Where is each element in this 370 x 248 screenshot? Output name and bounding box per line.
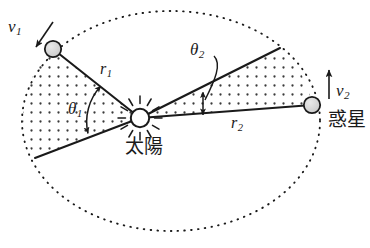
- label-theta2-base: θ: [190, 40, 198, 59]
- label-v1: v1: [8, 18, 22, 37]
- label-v2: v2: [336, 82, 350, 101]
- label-r2-base: r: [231, 114, 237, 131]
- label-r2-subscript: 2: [238, 122, 243, 133]
- orbit-diagram-canvas: [0, 0, 370, 248]
- label-r1-base: r: [100, 60, 106, 77]
- planet-body-position-2: [304, 97, 320, 113]
- label-theta1: θ1: [68, 100, 82, 119]
- swept-area-sector-1: [0, 0, 370, 248]
- label-r1: r1: [100, 61, 112, 80]
- label-v1-base: v: [8, 17, 16, 36]
- sun-glyph: [118, 96, 162, 140]
- label-v2-subscript: 2: [344, 89, 350, 101]
- label-r2: r2: [231, 115, 243, 134]
- label-sun: 太陽: [125, 137, 163, 156]
- label-theta1-base: θ: [68, 99, 76, 118]
- label-theta1-subscript: 1: [77, 107, 83, 119]
- planet-body-position-1: [45, 41, 61, 57]
- label-v1-subscript: 1: [16, 25, 22, 37]
- label-r1-subscript: 1: [107, 68, 112, 79]
- label-theta2-subscript: 2: [199, 48, 205, 60]
- label-v2-base: v: [336, 81, 344, 100]
- kepler-second-law-figure: v1 v2 r1 r2 θ1 θ2 太陽 惑星: [0, 0, 370, 248]
- label-theta2: θ2: [190, 41, 204, 60]
- label-planet: 惑星: [328, 110, 366, 129]
